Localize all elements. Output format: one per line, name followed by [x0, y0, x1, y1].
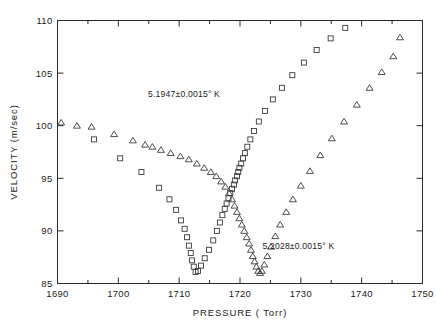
plot-background — [0, 0, 437, 320]
x-tick-label: 1690 — [46, 288, 68, 299]
y-tick-label: 110 — [36, 15, 52, 26]
x-tick-label: 1740 — [350, 288, 372, 299]
y-tick-label: 105 — [36, 68, 53, 79]
scatter-plot: 1690170017101720173017401750 85909510010… — [0, 0, 437, 320]
x-tick-label: 1700 — [107, 288, 129, 299]
y-tick-label: 90 — [41, 225, 52, 236]
figure-container: 1690170017101720173017401750 85909510010… — [0, 0, 437, 320]
x-axis-title: PRESSURE ( Torr) — [193, 307, 287, 318]
series-a-annotation: 5.1947±0.0015° K — [148, 89, 220, 99]
x-tick-label: 1720 — [229, 288, 251, 299]
x-tick-label: 1710 — [168, 288, 190, 299]
x-tick-label: 1730 — [290, 288, 312, 299]
series-b-annotation: 5.2028±0.0015° K — [262, 241, 334, 251]
y-tick-label: 95 — [41, 173, 52, 184]
y-axis-title: VELOCITY (m/sec) — [8, 104, 19, 200]
y-tick-label: 85 — [41, 278, 52, 289]
y-tick-label: 100 — [36, 120, 53, 131]
x-tick-label: 1750 — [411, 288, 433, 299]
